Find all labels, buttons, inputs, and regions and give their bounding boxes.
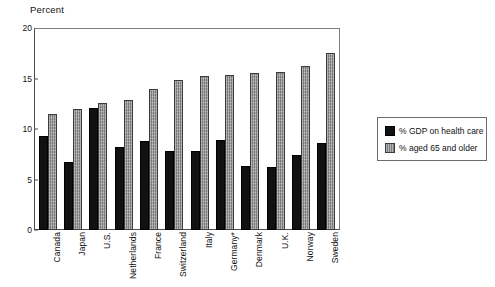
- bar-gdp-health-care: [216, 140, 225, 230]
- bar-gdp-health-care: [165, 151, 174, 230]
- bar-gdp-health-care: [191, 151, 200, 230]
- bar-gdp-health-care: [267, 167, 276, 230]
- bar-gdp-health-care: [140, 141, 149, 230]
- y-axis-tick-mark: [34, 129, 38, 130]
- y-axis-tick-label: 10: [23, 124, 32, 134]
- bar-group: [241, 28, 259, 230]
- legend-entry-aged-65-and-older: % aged 65 and older: [385, 142, 477, 154]
- bar-aged-65-and-older: [276, 72, 285, 230]
- bar-group: [115, 28, 133, 230]
- bar-aged-65-and-older: [149, 89, 158, 230]
- y-axis-title: Percent: [30, 4, 64, 15]
- x-axis-label-denmark: Denmark: [254, 232, 264, 267]
- bar-gdp-health-care: [292, 155, 301, 230]
- bar-gdp-health-care: [317, 143, 326, 230]
- bars-layer: [35, 28, 339, 230]
- bar-group: [39, 28, 57, 230]
- bar-group: [64, 28, 82, 230]
- x-axis-label-netherlands: Netherlands: [128, 232, 138, 279]
- bar-gdp-health-care: [89, 108, 98, 230]
- x-axis-label-norway: Norway: [305, 232, 315, 261]
- legend-swatch-dark-icon: [385, 126, 395, 136]
- bar-aged-65-and-older: [48, 114, 57, 230]
- legend-label-aged-65-and-older: % aged 65 and older: [399, 143, 477, 153]
- y-axis-tick-label: 20: [23, 23, 32, 33]
- bar-aged-65-and-older: [73, 109, 82, 230]
- x-axis-category-labels: CanadaJapanU.S.NetherlandsFranceSwitzerl…: [35, 232, 339, 287]
- bar-aged-65-and-older: [200, 76, 209, 230]
- y-axis-tick-labels: 05101520: [14, 0, 32, 287]
- bar-group: [140, 28, 158, 230]
- bar-gdp-health-care: [64, 162, 73, 230]
- x-axis-label-germany: Germany*: [229, 232, 239, 271]
- bar-gdp-health-care: [241, 166, 250, 230]
- x-axis-label-u-s: U.S.: [102, 232, 112, 249]
- x-axis-label-japan: Japan: [77, 232, 87, 256]
- x-axis-label-switzerland: Switzerland: [178, 232, 188, 277]
- legend-entry-gdp-health-care: % GDP on health care: [385, 125, 483, 137]
- bar-group: [191, 28, 209, 230]
- bar-gdp-health-care: [115, 147, 124, 230]
- bar-aged-65-and-older: [250, 73, 259, 230]
- bar-group: [267, 28, 285, 230]
- bar-group: [216, 28, 234, 230]
- bar-aged-65-and-older: [225, 75, 234, 230]
- y-axis-tick-mark: [34, 78, 38, 79]
- y-axis-tick-mark: [34, 179, 38, 180]
- bar-chart: Percent 05101520 CanadaJapanU.S.Netherla…: [0, 0, 495, 287]
- x-axis-label-u-k: U.K.: [280, 232, 290, 249]
- bar-aged-65-and-older: [98, 103, 107, 230]
- y-axis-tick-label: 5: [27, 175, 32, 185]
- bar-group: [165, 28, 183, 230]
- chart-legend: % GDP on health care % aged 65 and older: [377, 117, 487, 161]
- bar-aged-65-and-older: [124, 100, 133, 230]
- x-axis-label-sweden: Sweden: [330, 232, 340, 263]
- bar-group: [89, 28, 107, 230]
- x-axis-label-italy: Italy: [204, 232, 214, 248]
- bar-gdp-health-care: [39, 136, 48, 230]
- bar-group: [317, 28, 335, 230]
- legend-swatch-hatched-icon: [385, 143, 395, 153]
- y-axis-tick-label: 15: [23, 74, 32, 84]
- x-axis-label-france: France: [153, 232, 163, 259]
- bar-aged-65-and-older: [174, 80, 183, 230]
- x-axis-label-canada: Canada: [52, 232, 62, 262]
- bar-aged-65-and-older: [301, 66, 310, 230]
- legend-label-gdp-health-care: % GDP on health care: [399, 126, 483, 136]
- bar-aged-65-and-older: [326, 53, 335, 230]
- y-axis-tick-mark: [34, 230, 38, 231]
- bar-group: [292, 28, 310, 230]
- y-axis-tick-label: 0: [27, 225, 32, 235]
